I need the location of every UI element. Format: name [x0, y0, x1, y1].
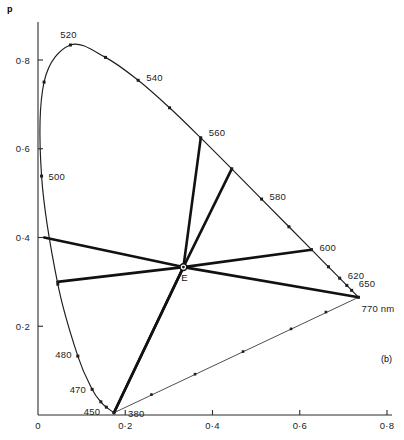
- y-tick-label: 0·6: [16, 143, 30, 154]
- white-point-marker: E: [180, 264, 188, 283]
- wavelength-label: 380: [128, 408, 144, 419]
- wavelength-label: 580: [270, 191, 286, 202]
- chord-segment: [114, 267, 183, 413]
- spectral-locus-curve: [40, 44, 358, 413]
- locus-point-marker: [357, 296, 360, 299]
- locus-point-marker: [338, 277, 341, 280]
- x-tick-label: 0·6: [293, 420, 307, 431]
- purple-boundary-tick: [242, 350, 245, 353]
- chart-axes: [38, 22, 392, 415]
- locus-point-marker: [260, 198, 263, 201]
- locus-point-marker: [105, 406, 108, 409]
- purple-boundary-tick: [150, 393, 153, 396]
- locus-point-marker: [310, 248, 313, 251]
- wavelength-label: 450: [84, 406, 100, 417]
- locus-point-marker: [40, 175, 43, 178]
- locus-point-marker: [91, 388, 94, 391]
- locus-point-marker: [69, 44, 72, 47]
- locus-point-marker: [76, 355, 79, 358]
- y-tick-label: 0·8: [16, 55, 30, 66]
- locus-point-marker: [56, 283, 59, 286]
- locus-point-marker: [327, 265, 330, 268]
- locus-point-marker: [287, 225, 290, 228]
- wavelength-label: 480: [55, 349, 71, 360]
- x-tick-label: 0: [35, 420, 40, 431]
- wavelength-label: 770 nm: [362, 303, 395, 314]
- corner-label: p: [7, 4, 13, 14]
- chord-segment: [44, 238, 183, 268]
- y-tick-label: 0·2: [16, 321, 30, 332]
- purple-boundary-line: [114, 297, 359, 413]
- locus-point-marker: [230, 167, 233, 170]
- spectral-locus-markers: [40, 44, 360, 415]
- purple-boundary-tick: [325, 311, 328, 314]
- wavelength-label: 600: [320, 242, 336, 253]
- wavelength-label: 650: [359, 278, 375, 289]
- purple-boundary-tick: [290, 328, 293, 331]
- x-tick-label: 0·2: [118, 420, 132, 431]
- wavelength-label: 520: [60, 29, 76, 40]
- locus-point-marker: [199, 136, 202, 139]
- white-point-dot: [182, 266, 185, 269]
- white-point-label: E: [181, 272, 187, 283]
- x-tick-label: 0·4: [205, 420, 219, 431]
- x-tick-label: 0·8: [380, 420, 394, 431]
- locus-point-marker: [350, 289, 353, 292]
- panel-label: (b): [381, 354, 392, 364]
- chromaticity-chart: 00·20·40·60·80·20·40·60·8 38045047048050…: [0, 0, 404, 440]
- wavelength-label: 470: [70, 384, 86, 395]
- locus-point-marker: [168, 106, 171, 109]
- locus-point-marker: [137, 79, 140, 82]
- locus-point-marker: [112, 411, 115, 414]
- wavelength-label: 540: [146, 72, 162, 83]
- locus-point-marker: [43, 81, 46, 84]
- spectral-locus-path: [40, 44, 358, 413]
- wavelength-labels: 380450470480500520540560580600620650770 …: [49, 29, 395, 419]
- locus-point-marker: [345, 284, 348, 287]
- wavelength-label: 500: [49, 171, 65, 182]
- locus-point-marker: [99, 400, 102, 403]
- purple-boundary-tick: [194, 373, 197, 376]
- y-tick-label: 0·4: [16, 232, 30, 243]
- chord-segment: [57, 267, 183, 282]
- wavelength-label: 560: [209, 127, 225, 138]
- locus-point-marker: [104, 56, 107, 59]
- chromaticity-diagram-figure: 00·20·40·60·80·20·40·60·8 38045047048050…: [0, 0, 404, 440]
- chord-segment: [183, 267, 358, 297]
- chord-segment: [183, 250, 311, 267]
